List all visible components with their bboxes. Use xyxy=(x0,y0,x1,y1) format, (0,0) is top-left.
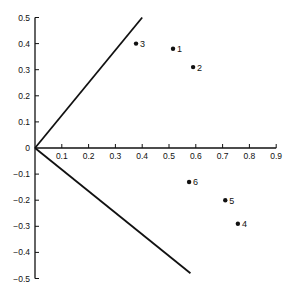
y-tick-label: −0.1 xyxy=(13,169,30,179)
data-point-label: 6 xyxy=(193,177,198,187)
data-point-label: 5 xyxy=(229,196,234,206)
origin-label: 0 xyxy=(25,143,30,153)
x-tick-label: 0.6 xyxy=(190,151,202,161)
x-tick-label: 0.1 xyxy=(56,151,68,161)
data-point-3 xyxy=(134,41,138,45)
upper-boundary-line xyxy=(35,18,142,149)
x-tick-label: 0.2 xyxy=(83,151,95,161)
data-point-label: 1 xyxy=(177,44,182,54)
x-tick-label: 0.4 xyxy=(136,151,148,161)
data-point-5 xyxy=(223,198,227,202)
scatter-chart: 0.10.20.30.40.50.60.70.80.90.50.40.30.20… xyxy=(0,0,294,295)
data-points: 123456 xyxy=(134,39,247,229)
y-tick-label: 0.2 xyxy=(18,91,30,101)
data-point-label: 3 xyxy=(140,39,145,49)
axes: 0.10.20.30.40.50.60.70.80.90.50.40.30.20… xyxy=(13,13,282,284)
y-tick-label: 0.5 xyxy=(18,13,30,23)
boundary-lines xyxy=(35,18,190,274)
y-tick-label: −0.3 xyxy=(13,221,30,231)
lower-boundary-line xyxy=(35,148,190,273)
y-tick-label: −0.5 xyxy=(13,274,30,284)
data-point-label: 2 xyxy=(197,63,202,73)
data-point-4 xyxy=(236,221,240,225)
data-point-6 xyxy=(187,180,191,184)
x-tick-label: 0.7 xyxy=(217,151,229,161)
y-tick-label: 0.3 xyxy=(18,65,30,75)
x-tick-label: 0.8 xyxy=(243,151,255,161)
x-tick-label: 0.9 xyxy=(270,151,282,161)
data-point-1 xyxy=(171,47,175,51)
x-tick-label: 0.5 xyxy=(163,151,175,161)
data-point-label: 4 xyxy=(242,219,247,229)
y-tick-label: 0.1 xyxy=(18,117,30,127)
data-point-2 xyxy=(191,65,195,69)
x-tick-label: 0.3 xyxy=(109,151,121,161)
y-tick-label: −0.4 xyxy=(13,247,30,257)
y-tick-label: −0.2 xyxy=(13,195,30,205)
y-tick-label: 0.4 xyxy=(18,39,30,49)
